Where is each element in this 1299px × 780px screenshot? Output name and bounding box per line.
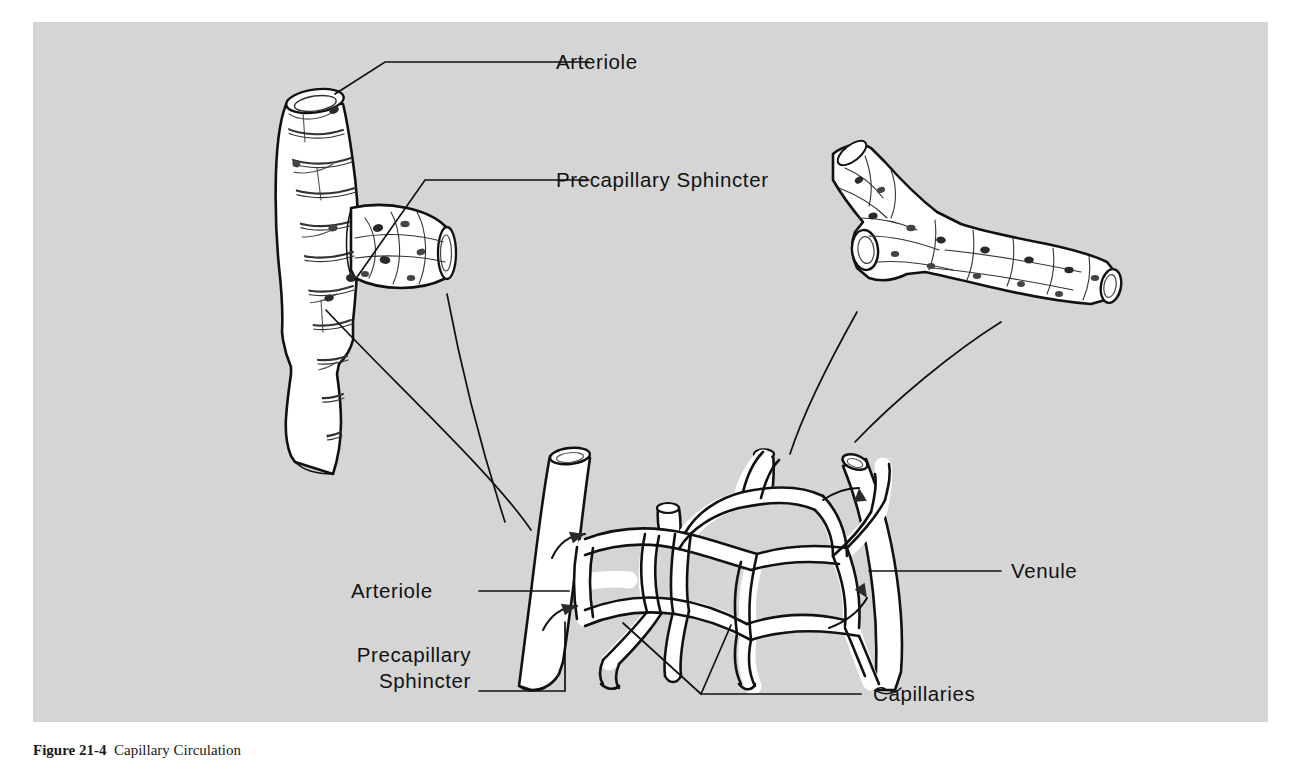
label-arteriole-bed: Arteriole (351, 579, 433, 603)
capillary-mesh (574, 452, 890, 689)
label-capillaries: Capillaries (873, 682, 975, 706)
capillary-bed-network (519, 446, 902, 694)
capillary-circulation-diagram: .ink{stroke:#111;fill:none;stroke-lineca… (33, 22, 1268, 722)
label-precapillary-sphincter-top: Precapillary Sphincter (556, 168, 769, 192)
figure-caption: Figure 21-4 Capillary Circulation (33, 742, 733, 759)
leader-venule-to-bed-right (855, 322, 1001, 442)
figure-root: .ink{stroke:#111;fill:none;stroke-lineca… (0, 0, 1299, 780)
label-precapillary-sphincter-bed: PrecapillarySphincter (301, 642, 471, 694)
label-arteriole-top: Arteriole (556, 50, 638, 74)
label-precapillary-sphincter-bed-line1: Precapillary (357, 643, 471, 666)
label-venule: Venule (1011, 559, 1077, 583)
figure-caption-number: Figure 21-4 (33, 742, 106, 758)
leader-capillaries-b (623, 623, 701, 694)
leader-capillaries-c (701, 625, 731, 694)
leader-arteriole-to-bed (326, 310, 531, 530)
leader-venule-to-bed-left (790, 312, 857, 454)
venule-detail-illustration (833, 136, 1124, 304)
figure-caption-text: Capillary Circulation (114, 742, 241, 758)
figure-panel: .ink{stroke:#111;fill:none;stroke-lineca… (33, 22, 1268, 722)
label-precapillary-sphincter-bed-line2: Sphincter (379, 669, 471, 692)
leader-arteriole-top (335, 62, 589, 94)
